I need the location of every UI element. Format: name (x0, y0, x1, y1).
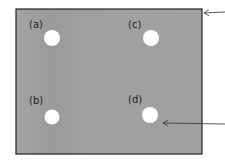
hole-label-d: (d) (128, 94, 142, 105)
arrow-1 (204, 12, 225, 13)
hole-label-c: (c) (128, 19, 141, 30)
hole-label-a: (a) (29, 19, 43, 30)
plate (16, 9, 202, 154)
hole-d (142, 107, 158, 123)
hole-c (143, 30, 159, 46)
plate-diagram: (a)(c)(b)(d) (0, 0, 225, 165)
hole-label-b: (b) (29, 95, 43, 106)
hole-b (45, 110, 60, 125)
hole-a (44, 30, 60, 46)
